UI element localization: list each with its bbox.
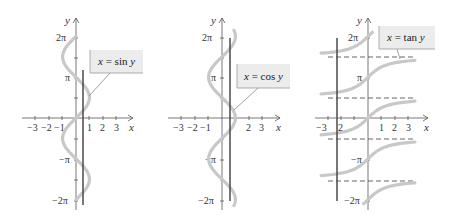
x-tick-label: 3 bbox=[406, 122, 411, 133]
curve-label: x = tan y bbox=[386, 31, 425, 43]
x-tick-label: 2 bbox=[100, 122, 105, 133]
x-tick-label: 1 bbox=[87, 122, 92, 133]
figure: −3 −2 −1 1 2 3 x y 2π π −π −2π x = sin y bbox=[0, 0, 457, 222]
x-tick-label: 3 bbox=[114, 122, 119, 133]
y-tick-label: −π bbox=[351, 154, 362, 165]
x-tick-label: −2 bbox=[187, 122, 198, 133]
panel-cos: −3 −2 −1 2 3 x y 2π π −π −2π x = cos y bbox=[168, 14, 290, 210]
y-axis-label: y bbox=[64, 14, 70, 26]
x-tick-label: 1 bbox=[379, 122, 384, 133]
y-tick-label: 2π bbox=[348, 32, 358, 43]
x-tick-label: −3 bbox=[316, 122, 327, 133]
y-tick-label: 2π bbox=[56, 32, 66, 43]
y-tick-label: π bbox=[211, 72, 216, 83]
panel-tan: −3 2 1 2 3 x y 2π π −π −2π x = tan y bbox=[315, 14, 435, 210]
y-axis-label: y bbox=[356, 14, 362, 26]
y-tick-label: −2π bbox=[344, 195, 360, 206]
x-axis-label: x bbox=[275, 121, 281, 133]
x-tick-label: −1 bbox=[200, 122, 211, 133]
curve-label: x = cos y bbox=[243, 70, 283, 82]
y-tick-label: −2π bbox=[52, 195, 68, 206]
x-axis bbox=[168, 115, 280, 121]
x-axis-label: x bbox=[128, 121, 134, 133]
x-tick-label: 3 bbox=[259, 122, 264, 133]
x-tick-label: 2 bbox=[246, 122, 251, 133]
y-tick-label: −2π bbox=[198, 195, 214, 206]
x-axis-label: x bbox=[423, 121, 429, 133]
label-leader bbox=[89, 73, 110, 96]
x-tick-label: −3 bbox=[27, 122, 38, 133]
y-axis-label: y bbox=[210, 14, 216, 26]
x-tick-label: 2 bbox=[392, 122, 397, 133]
panel-sin: −3 −2 −1 1 2 3 x y 2π π −π −2π x = sin y bbox=[22, 14, 143, 210]
curve-label: x = sin y bbox=[97, 55, 135, 67]
label-leader bbox=[397, 49, 400, 59]
x-tick-label: −3 bbox=[173, 122, 184, 133]
y-tick-label: 2π bbox=[202, 32, 212, 43]
y-tick-label: −π bbox=[59, 154, 70, 165]
y-tick-label: π bbox=[65, 72, 70, 83]
label-leader bbox=[234, 88, 258, 110]
x-tick-label: −2 bbox=[41, 122, 52, 133]
